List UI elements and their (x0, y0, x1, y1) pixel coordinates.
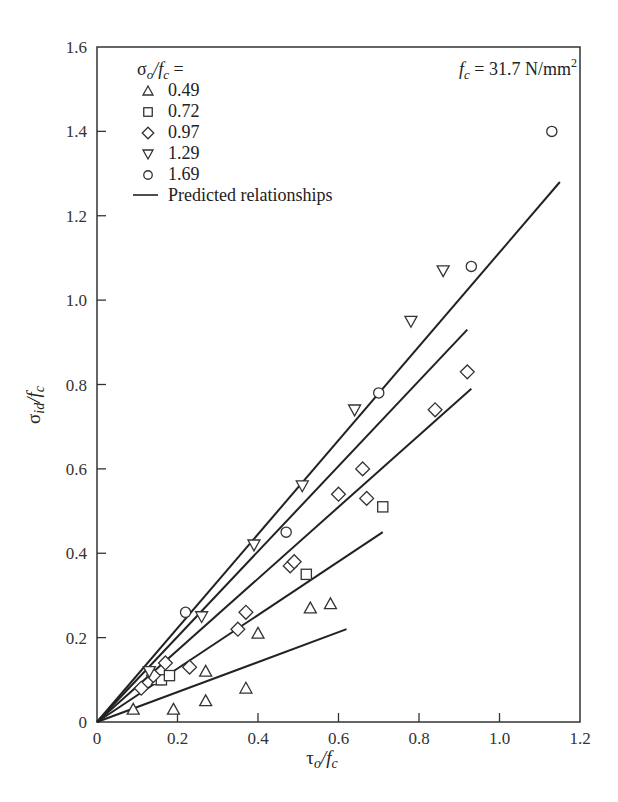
legend-item-predicted: Predicted relationships (168, 185, 332, 205)
square-marker (378, 502, 388, 512)
triangle-up-marker (200, 695, 212, 706)
triangle-down-marker (349, 405, 361, 416)
y-tick-label: 1.4 (66, 122, 88, 141)
triangle-down-marker (143, 150, 153, 159)
triangle-down-marker (437, 266, 449, 277)
legend-item-1.29: 1.29 (168, 143, 200, 163)
triangle-up-marker (304, 602, 316, 613)
diamond-marker (356, 462, 370, 476)
diamond-marker (183, 660, 197, 674)
predicted-line-1.69 (97, 182, 560, 722)
triangle-up-marker (200, 665, 212, 676)
triangle-up-marker (324, 598, 336, 609)
square-marker (144, 108, 153, 117)
legend: σo/fc = 0.490.720.971.291.69Predicted re… (133, 59, 332, 205)
diamond-marker (360, 492, 374, 506)
legend-item-1.69: 1.69 (168, 164, 200, 184)
triangle-down-marker (405, 316, 417, 327)
predicted-lines (97, 182, 560, 722)
diamond-marker (428, 403, 442, 417)
predicted-line-1.29 (97, 330, 467, 722)
circle-marker (374, 388, 384, 398)
legend-item-0.72: 0.72 (168, 101, 200, 121)
y-tick-label: 0.8 (66, 376, 87, 395)
legend-item-0.49: 0.49 (168, 80, 200, 100)
square-marker (301, 569, 311, 579)
scatter-chart: 00.20.40.60.81.01.200.20.40.60.81.01.21.… (0, 0, 618, 802)
triangle-down-marker (196, 612, 208, 623)
x-tick-label: 0.2 (167, 729, 188, 748)
y-tick-label: 1.2 (66, 207, 87, 226)
y-tick-label: 0 (79, 713, 88, 732)
axis-ticks: 00.20.40.60.81.01.200.20.40.60.81.01.21.… (66, 38, 591, 748)
x-tick-label: 0.6 (328, 729, 349, 748)
fc-annotation: fc = 31.7 N/mm2 (459, 56, 577, 82)
diamond-marker (332, 487, 346, 501)
circle-marker (144, 171, 153, 180)
x-tick-label: 0.8 (408, 729, 429, 748)
diamond-marker (239, 605, 253, 619)
triangle-up-marker (127, 703, 139, 714)
square-marker (164, 670, 174, 680)
circle-marker (466, 261, 476, 271)
x-tick-label: 1.0 (489, 729, 510, 748)
y-tick-label: 0.4 (66, 544, 88, 563)
x-tick-label: 0.4 (247, 729, 269, 748)
triangle-up-marker (143, 86, 153, 95)
diamond-marker (460, 365, 474, 379)
diamond-marker (134, 681, 148, 695)
legend-item-0.97: 0.97 (168, 122, 200, 142)
circle-marker (180, 607, 190, 617)
x-tick-label: 1.2 (569, 729, 590, 748)
triangle-up-marker (252, 627, 264, 638)
y-tick-label: 1.6 (66, 38, 87, 57)
x-tick-label: 0 (93, 729, 102, 748)
legend-title: σo/fc = (137, 59, 184, 82)
y-tick-label: 0.6 (66, 460, 87, 479)
y-axis-label: σid/fc (23, 385, 47, 424)
y-tick-label: 1.0 (66, 291, 87, 310)
y-tick-label: 0.2 (66, 629, 87, 648)
x-axis-label: τo/fc (306, 747, 338, 771)
diamond-marker (142, 127, 154, 139)
circle-marker (547, 126, 557, 136)
circle-marker (281, 527, 291, 537)
triangle-up-marker (167, 703, 179, 714)
data-points (127, 126, 557, 714)
triangle-up-marker (240, 682, 252, 693)
triangle-down-marker (248, 540, 260, 551)
